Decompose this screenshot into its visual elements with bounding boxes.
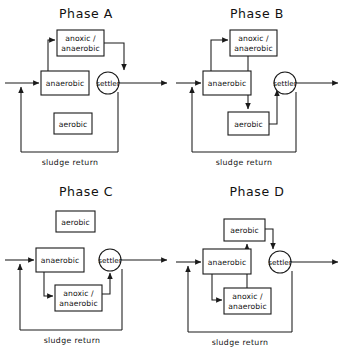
sludge-return-label: sludge return xyxy=(42,158,99,167)
reactor-anoxic-anaerobic[interactable]: anoxic / anaerobic xyxy=(57,30,104,56)
settler-label: settler xyxy=(268,258,292,267)
reactor-label: aerobic xyxy=(61,218,90,227)
anaerobic-to-anoxic-line xyxy=(212,274,222,300)
anoxic-to-settler-line xyxy=(104,43,124,70)
settler[interactable]: settler xyxy=(96,72,120,94)
reactor-label-line2: anaerobic xyxy=(228,302,266,311)
anaerobic-to-anoxic-line xyxy=(48,40,55,71)
settler-label: settler xyxy=(273,79,297,88)
reactor-label-line1: anoxic / xyxy=(238,34,269,43)
reactor-aerobic[interactable]: aerobic xyxy=(56,211,95,232)
anaerobic-to-anoxic-line xyxy=(211,40,228,71)
reactor-label-line2: anaerobic xyxy=(234,44,272,53)
reactor-anoxic-anaerobic[interactable]: anoxic / anaerobic xyxy=(55,285,102,311)
aerobic-to-settler-line xyxy=(269,90,277,124)
reactor-anaerobic[interactable]: anaerobic xyxy=(203,71,251,95)
panel-phase-a: Phase A anoxic / anaerobic anaerobic a xyxy=(0,0,172,177)
aerobic-to-settler-line xyxy=(265,229,273,249)
panel-title: Phase D xyxy=(229,184,284,199)
reactor-label: anaerobic xyxy=(208,258,246,267)
reactor-label: anaerobic xyxy=(208,79,246,88)
reactor-label-line2: anaerobic xyxy=(59,299,97,308)
reactor-label-line1: anoxic / xyxy=(232,292,263,301)
sludge-return-label: sludge return xyxy=(212,338,269,347)
panel-title: Phase B xyxy=(230,6,284,21)
sludge-return-label: sludge return xyxy=(44,336,101,345)
reactor-aerobic[interactable]: aerobic xyxy=(54,113,92,134)
settler[interactable]: settler xyxy=(273,72,297,94)
reactor-label: anaerobic xyxy=(46,79,84,88)
process-flow-diagram-figure: Phase A anoxic / anaerobic anaerobic a xyxy=(0,0,343,353)
reactor-label: aerobic xyxy=(59,120,88,129)
reactor-label-line1: anoxic / xyxy=(63,289,94,298)
reactor-label: aerobic xyxy=(230,226,259,235)
reactor-anoxic-anaerobic[interactable]: anoxic / anaerobic xyxy=(230,30,277,56)
reactor-anaerobic[interactable]: anaerobic xyxy=(203,249,251,274)
panel-title: Phase C xyxy=(59,184,113,199)
reactor-anoxic-anaerobic[interactable]: anoxic / anaerobic xyxy=(224,288,271,314)
settler-label: settler xyxy=(96,79,120,88)
reactor-label: anaerobic xyxy=(41,256,79,265)
panel-phase-c: Phase C aerobic anaerobic anoxic / anaer… xyxy=(0,176,172,353)
panel-title: Phase A xyxy=(59,6,113,21)
reactor-anaerobic[interactable]: anaerobic xyxy=(41,71,89,95)
settler[interactable]: settler xyxy=(98,249,122,271)
reactor-label-line1: anoxic / xyxy=(65,34,96,43)
anaerobic-to-anoxic-line xyxy=(44,272,53,296)
reactor-anaerobic[interactable]: anaerobic xyxy=(36,248,84,272)
panel-phase-b: Phase B anoxic / anaerobic anaerobic aer… xyxy=(171,0,343,177)
panel-phase-d: Phase D aerobic anaerobic anoxic / anaer… xyxy=(171,176,343,353)
anoxic-to-settler-line xyxy=(102,273,110,294)
reactor-label-line2: anaerobic xyxy=(61,44,99,53)
reactor-aerobic[interactable]: aerobic xyxy=(224,219,265,241)
settler-label: settler xyxy=(98,256,122,265)
reactor-label: aerobic xyxy=(234,120,263,129)
sludge-return-label: sludge return xyxy=(216,158,273,167)
settler[interactable]: settler xyxy=(268,251,292,273)
reactor-aerobic[interactable]: aerobic xyxy=(228,112,269,135)
